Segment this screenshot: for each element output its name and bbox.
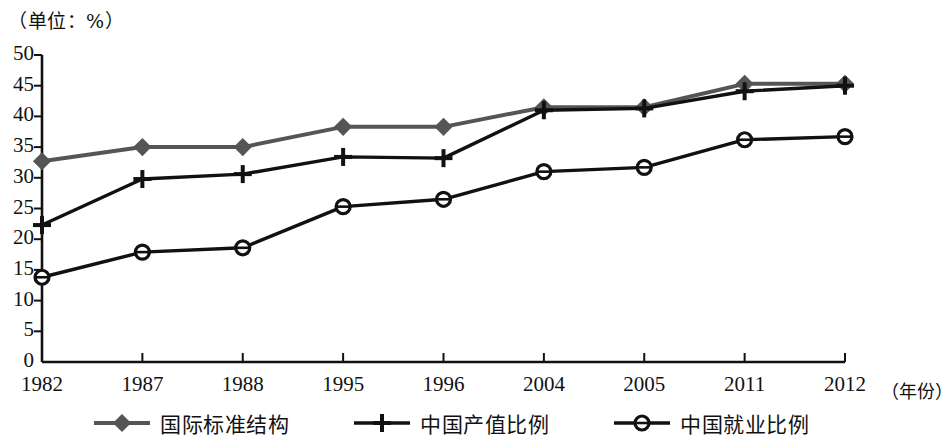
data-point-marker-circle [236,241,250,255]
data-point-marker-circle [437,192,451,206]
data-point-marker-circle [738,133,752,147]
y-tick-label: 45 [0,72,34,97]
data-point-marker-circle [336,200,350,214]
data-point-marker-plus [33,216,51,234]
series-2 [33,77,854,234]
data-point-marker-plus [535,101,553,119]
y-tick-label: 0 [0,348,34,373]
legend-marker-diamond-icon [91,412,153,434]
data-point-marker-circle [35,270,49,284]
data-point-marker-diamond [335,119,351,135]
legend-label: 国际标准结构 [160,408,289,438]
x-tick-label: 1996 [423,372,465,397]
data-point-marker-plus [836,77,854,95]
legend-item-3[interactable]: 中国就业比例 [611,408,809,438]
data-point-marker-plus [373,414,391,432]
legend-label: 中国就业比例 [680,408,809,438]
diamond-marker-icon [34,153,50,169]
legend-marker-circle-icon [611,412,673,434]
x-tick-label: 2012 [824,372,866,397]
diamond-marker-icon [114,415,130,431]
diamond-marker-icon [335,119,351,135]
x-tick-label: 2005 [623,372,665,397]
line-chart-plot [0,0,900,400]
diamond-marker-icon [436,119,452,135]
legend-item-1[interactable]: 国际标准结构 [91,408,289,438]
data-point-marker-diamond [235,139,251,155]
x-tick-label: 1982 [21,372,63,397]
y-tick-label: 35 [0,133,34,158]
y-tick-label: 25 [0,195,34,220]
legend-marker-plus-icon [351,412,413,434]
data-point-marker-diamond [436,119,452,135]
data-point-marker-plus [234,165,252,183]
y-tick-label: 5 [0,317,34,342]
data-point-marker-diamond [34,153,50,169]
x-tick-label: 2004 [523,372,565,397]
y-tick-label: 20 [0,225,34,250]
data-point-marker-circle [635,416,649,430]
x-axis-title: （年份） [881,377,946,403]
y-tick-label: 30 [0,164,34,189]
data-point-marker-circle [135,245,149,259]
x-tick-label: 2011 [724,372,765,397]
legend-label: 中国产值比例 [420,408,549,438]
x-tick-label: 1987 [121,372,163,397]
data-point-marker-circle [537,165,551,179]
x-tick-label: 1995 [322,372,364,397]
legend-item-2[interactable]: 中国产值比例 [351,408,549,438]
data-point-marker-plus [435,149,453,167]
data-point-marker-circle [637,160,651,174]
data-point-marker-diamond [114,415,130,431]
data-point-marker-plus [334,148,352,166]
data-point-marker-circle [838,130,852,144]
y-tick-label: 40 [0,102,34,127]
diamond-marker-icon [134,139,150,155]
data-point-marker-plus [635,99,653,117]
y-tick-label: 15 [0,256,34,281]
y-tick-label: 50 [0,41,34,66]
data-point-marker-diamond [134,139,150,155]
y-tick-label: 10 [0,287,34,312]
data-point-marker-plus [133,170,151,188]
x-tick-label: 1988 [222,372,264,397]
chart-legend: 国际标准结构中国产值比例中国就业比例 [0,404,900,441]
diamond-marker-icon [235,139,251,155]
